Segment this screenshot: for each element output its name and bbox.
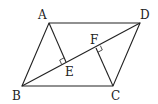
perpendicular-cf [96,48,113,86]
right-angle-mark-f [98,46,102,53]
geometry-diagram: A D B C E F [0,0,158,104]
label-f: F [90,33,98,47]
perpendicular-ae [49,23,66,62]
label-b: B [12,89,21,103]
parallelogram-figure: A D B C E F [0,0,158,104]
label-c: C [111,89,120,103]
label-a: A [37,8,47,22]
diagonal-bd [22,23,140,86]
label-e: E [65,65,74,79]
label-d: D [140,8,150,22]
